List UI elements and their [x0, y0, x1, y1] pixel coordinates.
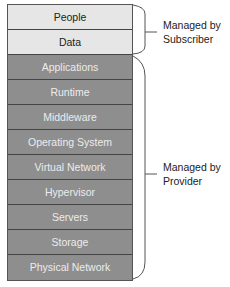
provider-label-line2: Provider: [163, 174, 221, 188]
subscriber-label-line1: Managed by: [163, 18, 221, 32]
provider-bracket-icon: [133, 56, 157, 279]
subscriber-label: Managed by Subscriber: [163, 18, 221, 46]
subscriber-bracket-icon: [133, 5, 157, 54]
provider-label: Managed by Provider: [163, 160, 221, 188]
provider-label-line1: Managed by: [163, 160, 221, 174]
subscriber-label-line2: Subscriber: [163, 32, 221, 46]
